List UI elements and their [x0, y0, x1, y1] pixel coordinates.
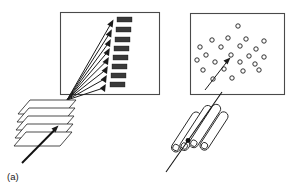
band-mark — [113, 55, 128, 60]
spot — [201, 68, 205, 72]
spot — [229, 53, 233, 57]
capillary-tube-bundle — [166, 92, 230, 172]
tube-junction-dot — [186, 138, 191, 143]
band-mark — [114, 46, 129, 51]
spot — [262, 39, 266, 43]
spot — [238, 44, 242, 48]
band-mark — [117, 17, 132, 22]
spot — [198, 45, 202, 49]
spot — [219, 45, 223, 49]
spot — [213, 60, 217, 64]
caption-label: (a) — [7, 171, 19, 182]
spot — [247, 54, 251, 58]
spot — [241, 69, 245, 73]
spot — [210, 38, 214, 42]
spot — [195, 58, 199, 62]
spot — [238, 60, 242, 64]
band-mark — [111, 73, 126, 78]
spot — [226, 36, 230, 40]
spot — [204, 53, 208, 57]
spot — [244, 37, 248, 41]
spot — [253, 62, 257, 66]
spot — [254, 47, 258, 51]
spot — [230, 76, 234, 80]
left-panel-group — [61, 13, 160, 101]
right-panel-group — [191, 14, 285, 95]
spot — [262, 55, 266, 59]
band-mark — [110, 82, 125, 87]
spot — [257, 68, 261, 72]
figure-container: (a) — [0, 0, 298, 192]
spot — [236, 24, 240, 28]
band-mark — [116, 27, 131, 32]
band-mark — [112, 64, 127, 69]
figure-canvas: (a) — [0, 0, 298, 192]
band-mark — [115, 37, 130, 42]
